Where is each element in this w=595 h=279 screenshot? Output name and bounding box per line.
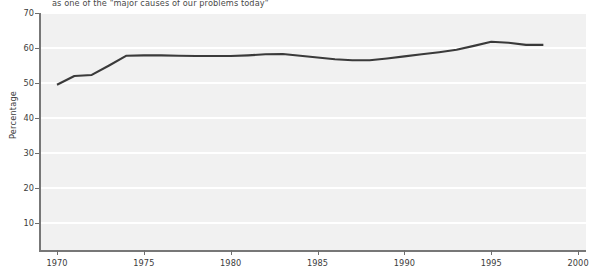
x-tick-label: 1970 (37, 258, 77, 268)
y-tick-label: 70 (8, 8, 34, 18)
y-tick-label: 10 (8, 218, 34, 228)
y-tick-mark (35, 153, 39, 154)
y-axis-spine (39, 13, 41, 251)
y-tick-label: 50 (8, 78, 34, 88)
data-line (57, 42, 543, 85)
x-tick-mark (318, 250, 319, 255)
y-tick-label: 30 (8, 148, 34, 158)
plot-area (40, 13, 586, 250)
line-chart: as one of the "major causes of our probl… (0, 0, 595, 279)
x-tick-mark (578, 250, 579, 255)
x-tick-label: 1990 (384, 258, 424, 268)
x-axis-spine (39, 250, 586, 252)
y-tick-label: 20 (8, 183, 34, 193)
y-tick-mark (35, 118, 39, 119)
x-tick-mark (404, 250, 405, 255)
y-tick-mark (35, 13, 39, 14)
x-tick-label: 1985 (298, 258, 338, 268)
x-tick-label: 1995 (471, 258, 511, 268)
x-tick-mark (231, 250, 232, 255)
y-tick-mark (35, 48, 39, 49)
y-tick-label: 40 (8, 113, 34, 123)
x-tick-label: 1980 (211, 258, 251, 268)
chart-title: as one of the "major causes of our probl… (52, 0, 269, 8)
y-tick-mark (35, 188, 39, 189)
x-tick-label: 2000 (558, 258, 595, 268)
x-tick-mark (491, 250, 492, 255)
x-tick-mark (57, 250, 58, 255)
x-tick-mark (144, 250, 145, 255)
y-tick-mark (35, 223, 39, 224)
y-tick-label: 60 (8, 43, 34, 53)
data-line-svg (40, 13, 586, 250)
y-tick-mark (35, 83, 39, 84)
x-tick-label: 1975 (124, 258, 164, 268)
